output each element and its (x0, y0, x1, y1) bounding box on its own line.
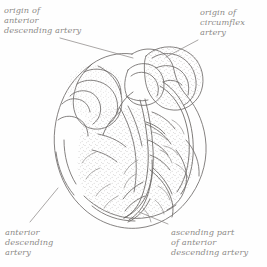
label-ascending-part-of-anterior-descending-artery: ascending part of anterior descending ar… (171, 227, 248, 258)
stipple-shading (60, 40, 218, 235)
label-origin-of-anterior-descending-artery: origin of anterior descending artery (4, 5, 81, 36)
figure-page: origin of anterior descending artery ori… (0, 0, 267, 267)
leader-origin-anterior-descending (60, 38, 133, 58)
label-origin-of-circumflex-artery: origin of circumflex artery (200, 7, 245, 38)
label-anterior-descending-artery: anterior descending artery (5, 227, 53, 258)
leader-anterior-descending (30, 188, 58, 222)
